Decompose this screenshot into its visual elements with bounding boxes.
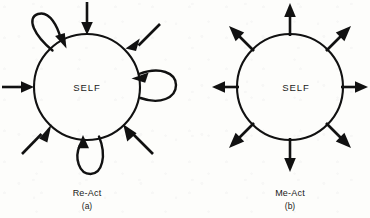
arrow-in-north xyxy=(81,2,93,35)
caption-name-b: Me-Act xyxy=(275,188,305,198)
self-label-b: SELF xyxy=(282,82,309,93)
self-label-a: SELF xyxy=(73,82,100,93)
arrow-out-south xyxy=(284,138,296,172)
caption-name-a: Re-Act xyxy=(73,188,102,198)
figure-canvas: SELF Re-Act (a) xyxy=(0,0,370,218)
arrow-in-west xyxy=(2,81,34,93)
arrow-in-southwest xyxy=(22,124,52,154)
panel-re-act: SELF Re-Act (a) xyxy=(2,2,176,211)
arrow-out-northeast xyxy=(326,26,351,51)
arrow-out-northwest xyxy=(229,26,254,51)
self-loop-northwest xyxy=(32,13,66,50)
arrow-out-west xyxy=(212,81,239,93)
arrow-out-southeast xyxy=(326,123,351,148)
arrow-out-east xyxy=(341,81,368,93)
caption-letter-b: (b) xyxy=(285,201,296,211)
arrow-out-southwest xyxy=(229,123,254,148)
figure-root: SELF Re-Act (a) xyxy=(0,0,370,218)
panel-me-act: SELF Me-Act (b) xyxy=(212,3,368,211)
caption-letter-a: (a) xyxy=(82,201,93,211)
arrow-in-northeast xyxy=(126,24,161,51)
arrow-in-southeast xyxy=(123,124,153,154)
arrow-out-north xyxy=(284,3,296,36)
